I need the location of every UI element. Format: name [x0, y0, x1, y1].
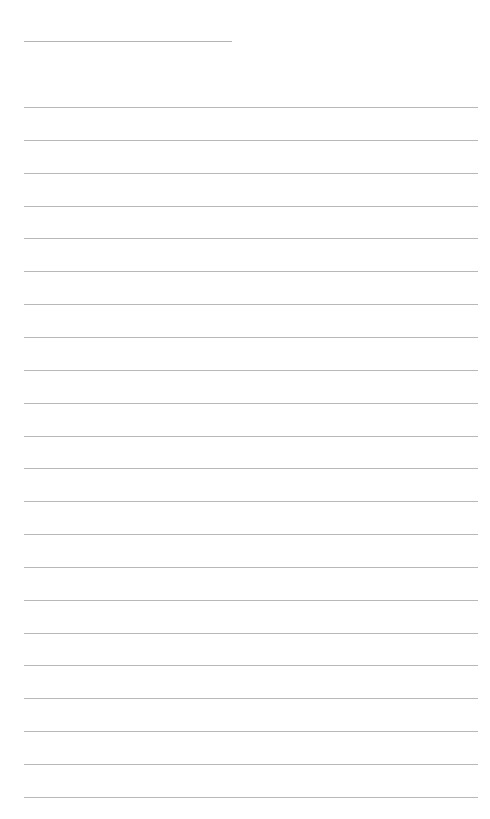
ruled-line: [24, 633, 478, 634]
ruled-line: [24, 304, 478, 305]
ruled-line: [24, 337, 478, 338]
ruled-line: [24, 238, 478, 239]
ruled-line: [24, 403, 478, 404]
ruled-line: [24, 698, 478, 699]
ruled-line: [24, 534, 478, 535]
ruled-line: [24, 501, 478, 502]
ruled-line: [24, 665, 478, 666]
ruled-line: [24, 764, 478, 765]
ruled-line: [24, 173, 478, 174]
ruled-line: [24, 206, 478, 207]
ruled-line: [24, 107, 478, 108]
ruled-line: [24, 436, 478, 437]
ruled-line: [24, 567, 478, 568]
ruled-line: [24, 468, 478, 469]
header-field-line: [24, 41, 232, 42]
ruled-line: [24, 600, 478, 601]
ruled-line: [24, 140, 478, 141]
ruled-line: [24, 370, 478, 371]
ruled-line: [24, 731, 478, 732]
ruled-line: [24, 271, 478, 272]
ruled-line: [24, 797, 478, 798]
